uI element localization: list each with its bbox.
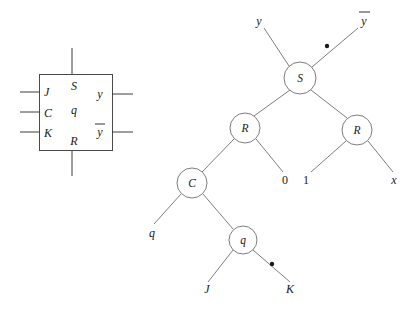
figure-canvas: J C K S q R y y — [0, 0, 418, 312]
edge-c-to-q-leaf — [154, 194, 181, 224]
edge-s-to-r2 — [311, 90, 347, 118]
edge-q-to-j — [208, 250, 233, 282]
edge-r1-to-c — [202, 139, 234, 172]
input-label-c: C — [44, 106, 53, 120]
tree-leaf-q: q — [149, 226, 155, 240]
expression-tree: S R R C q y y — [149, 12, 397, 296]
tree-leaf-k: K — [285, 282, 295, 296]
internal-label-r: R — [69, 134, 78, 148]
tree-leaf-zero: 0 — [282, 173, 288, 187]
internal-label-q: q — [71, 103, 77, 117]
edge-r2-to-1 — [311, 141, 346, 172]
input-label-j: J — [44, 85, 50, 99]
jk-flip-flop-symbol: J C K S q R y y — [20, 48, 133, 176]
tree-leaf-x: x — [390, 173, 397, 187]
tree-leaf-ybar: y — [360, 14, 367, 28]
edge-r1-to-0 — [256, 139, 283, 172]
negation-bubble-k-icon — [270, 262, 274, 266]
internal-label-s: S — [71, 79, 77, 93]
tree-node-r-left[interactable]: R — [230, 113, 260, 143]
output-label-y: y — [96, 87, 103, 101]
figure-svg: J C K S q R y y — [0, 0, 418, 312]
edge-r2-to-x — [368, 141, 393, 172]
tree-node-s[interactable]: S — [284, 62, 316, 94]
tree-node-s-label: S — [297, 72, 303, 84]
tree-node-r-right[interactable]: R — [342, 115, 372, 145]
output-label-ybar: y — [96, 125, 103, 139]
tree-node-c[interactable]: C — [177, 168, 207, 198]
tree-leaf-j: J — [204, 282, 210, 296]
edge-s-to-ybar — [312, 28, 358, 67]
tree-leaf-y: y — [255, 14, 262, 28]
tree-node-c-label: C — [188, 177, 196, 189]
tree-node-q-label: q — [240, 234, 246, 247]
edge-s-to-r1 — [254, 90, 290, 116]
tree-node-q[interactable]: q — [229, 226, 257, 254]
negation-bubble-ybar-icon — [325, 44, 329, 48]
tree-node-r-left-label: R — [240, 122, 248, 134]
input-label-k: K — [43, 126, 53, 140]
tree-leaf-one: 1 — [303, 173, 309, 187]
tree-node-r-right-label: R — [352, 124, 360, 136]
edge-s-to-y — [264, 28, 289, 66]
edge-c-to-q-node — [203, 194, 233, 229]
